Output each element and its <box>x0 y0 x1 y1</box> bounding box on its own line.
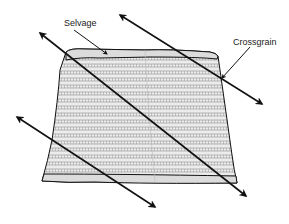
fabric-diagram <box>0 0 289 224</box>
crossgrain-label: Crossgrain <box>233 37 277 47</box>
fabric-swatch <box>42 49 237 183</box>
selvage-edge-bottom <box>42 174 237 183</box>
selvage-label: Selvage <box>64 18 97 28</box>
crossgrain-leader-line <box>222 47 250 78</box>
